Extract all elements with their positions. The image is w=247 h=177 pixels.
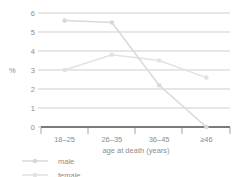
x-tick-label-0: 18–25 (54, 135, 75, 144)
x-tick-label-1: 26–35 (101, 135, 122, 144)
y-tick-label-3: 3 (31, 66, 35, 75)
legend-marker-male (33, 159, 38, 164)
male-point-2 (157, 83, 162, 88)
y-tick-label-6: 6 (31, 9, 35, 18)
chart-container: 6 5 4 3 2 1 0 % 18–25 26–35 36–45 ≥46 ag… (0, 0, 247, 177)
legend-label-male: male (58, 157, 74, 166)
female-point-2 (157, 58, 162, 63)
y-tick-label-0: 0 (31, 123, 35, 132)
female-point-1 (110, 53, 115, 58)
y-tick-label-4: 4 (31, 47, 35, 56)
x-tick-label-2: 36–45 (149, 135, 170, 144)
male-point-3 (204, 125, 209, 130)
x-tick-label-3: ≥46 (200, 135, 212, 144)
y-tick-label-1: 1 (31, 104, 35, 113)
legend-label-female: female (58, 171, 81, 177)
y-axis-title: % (9, 66, 16, 75)
y-tick-label-2: 2 (31, 85, 35, 94)
female-point-0 (62, 68, 67, 73)
x-axis-title: age at death (years) (102, 146, 170, 155)
y-tick-label-5: 5 (31, 28, 35, 37)
male-point-0 (62, 18, 67, 23)
female-point-3 (204, 75, 209, 80)
male-point-1 (110, 20, 115, 25)
